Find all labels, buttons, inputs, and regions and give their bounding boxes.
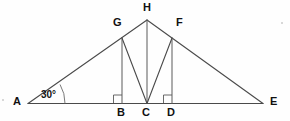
vertex-label-H: H	[143, 2, 151, 13]
vertex-label-D: D	[167, 107, 175, 118]
geometry-diagram: A B C D E F G H 30°	[0, 0, 290, 121]
segment-FC	[147, 38, 172, 104]
right-angle-mark-D	[164, 95, 173, 103]
vertex-label-F: F	[176, 17, 183, 28]
segment-side-HE	[147, 20, 263, 104]
vertex-label-G: G	[113, 17, 122, 28]
right-angle-mark-B	[114, 95, 123, 103]
angle-label-A: 30°	[41, 90, 56, 100]
vertex-label-B: B	[117, 107, 125, 118]
segment-GC	[122, 38, 147, 104]
angle-arc-A	[60, 85, 65, 104]
geometry-canvas	[0, 0, 290, 121]
artifact-speck-left	[2, 99, 4, 101]
artifact-speck-right	[281, 22, 283, 24]
vertex-label-C: C	[142, 107, 150, 118]
vertex-label-E: E	[270, 96, 277, 107]
vertex-label-A: A	[13, 96, 21, 107]
